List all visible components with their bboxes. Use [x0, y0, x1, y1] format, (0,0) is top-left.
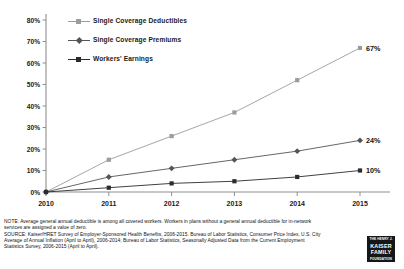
logo-line-3: FOUNDATION [370, 256, 392, 263]
chart-legend: Single Coverage Deductibles Single Cover… [68, 14, 187, 71]
data-point-marker [169, 165, 175, 171]
data-point-marker [358, 46, 362, 50]
data-point-marker [295, 78, 299, 82]
kaiser-family-foundation-logo: THE HENRY J. KAISER FAMILY FOUNDATION [367, 236, 395, 262]
y-tick-label: 80% [27, 17, 40, 24]
legend-item-deductibles[interactable]: Single Coverage Deductibles [68, 14, 187, 29]
chart-container: 0%10%20%30%40%50%60%70%80%20102011201220… [0, 0, 404, 214]
legend-label-premiums: Single Coverage Premiums [93, 37, 181, 44]
data-point-marker [232, 110, 236, 114]
legend-marker-earnings [68, 55, 90, 65]
x-tick-label: 2013 [227, 200, 243, 207]
legend-label-earnings: Workers' Earnings [93, 56, 153, 63]
data-point-marker [170, 181, 174, 185]
x-tick-label: 2012 [164, 200, 180, 207]
data-point-marker [358, 168, 362, 172]
x-tick-label: 2011 [101, 200, 116, 207]
legend-marker-deductibles [68, 17, 90, 27]
y-tick-label: 30% [27, 124, 40, 131]
series-end-label: 24% [366, 136, 381, 145]
series-line [46, 171, 360, 193]
data-point-marker [231, 157, 237, 163]
series-end-label: 10% [366, 166, 381, 175]
legend-label-deductibles: Single Coverage Deductibles [93, 18, 187, 25]
footnotes: NOTE: Average general annual deductible … [4, 219, 334, 250]
line-chart: 0%10%20%30%40%50%60%70%80%20102011201220… [0, 0, 404, 214]
source-line-3: Statistics Survey, 2006-2015 (April to A… [4, 244, 334, 250]
data-point-marker [357, 137, 363, 143]
source-line-1: SOURCE: Kaiser/HRET Survey of Employer-S… [4, 232, 334, 238]
series-line [46, 140, 360, 192]
y-tick-label: 10% [27, 167, 40, 174]
y-tick-label: 40% [27, 103, 40, 110]
data-point-marker [106, 174, 112, 180]
data-point-marker [295, 175, 299, 179]
x-tick-label: 2010 [38, 200, 54, 207]
x-tick-label: 2015 [352, 200, 368, 207]
x-tick-label: 2014 [289, 200, 305, 207]
data-point-marker [107, 158, 111, 162]
legend-item-earnings[interactable]: Workers' Earnings [68, 52, 187, 67]
legend-marker-premiums [68, 36, 90, 46]
y-tick-label: 60% [27, 60, 40, 67]
data-point-marker [170, 134, 174, 138]
data-point-marker [44, 190, 48, 194]
series-end-label: 67% [366, 44, 381, 53]
y-tick-label: 20% [27, 146, 40, 153]
data-point-marker [232, 179, 236, 183]
data-point-marker [294, 148, 300, 154]
y-tick-label: 0% [30, 189, 40, 196]
y-tick-label: 50% [27, 81, 40, 88]
legend-item-premiums[interactable]: Single Coverage Premiums [68, 33, 187, 48]
data-point-marker [107, 186, 111, 190]
y-tick-label: 70% [27, 38, 40, 45]
